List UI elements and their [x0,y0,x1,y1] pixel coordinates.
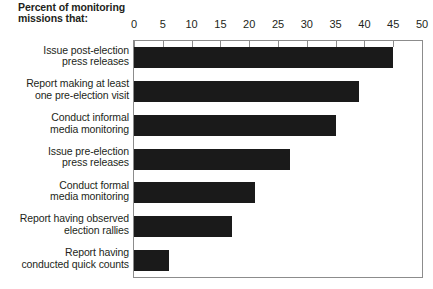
bar [134,115,336,136]
category-label-line: conducted quick counts [0,259,129,271]
bars-layer [134,41,422,277]
category-label-line: press releases [0,157,129,169]
x-axis-tick-label: 15 [214,18,226,31]
category-label: Issue post-electionpress releases [0,45,129,68]
category-label-line: election rallies [0,225,129,237]
category-axis-labels: Issue post-electionpress releasesReport … [0,40,129,278]
bar [134,182,255,203]
bar [134,216,232,237]
x-axis-tick-label: 10 [185,18,197,31]
category-label: Conduct formalmedia monitoring [0,180,129,203]
x-axis-tick-label: 5 [160,18,166,31]
category-label: Report having observedelection rallies [0,213,129,236]
chart-title-line-3: missions that: [18,12,88,24]
category-label: Conduct informalmedia monitoring [0,112,129,135]
chart-title-line-1: Percent of [18,1,68,13]
x-axis-tick-labels: 05101520253035404550 [133,18,423,36]
bar [134,250,169,271]
x-axis-tick-label: 30 [301,18,313,31]
x-axis-tick-label: 25 [272,18,284,31]
chart-title-line-2: monitoring [71,1,125,13]
bar-chart: Percent of monitoring missions that: 051… [0,0,433,289]
x-axis-tick-label: 45 [387,18,399,31]
category-label-line: Report having [0,247,129,259]
category-label-line: media monitoring [0,191,129,203]
category-label: Report havingconducted quick counts [0,247,129,270]
bar [134,47,393,68]
bar [134,81,359,102]
x-axis-tick-label: 0 [131,18,137,31]
bar [134,149,290,170]
x-axis-tick [422,41,423,47]
category-label-line: one pre-election visit [0,90,129,102]
category-label-line: media monitoring [0,124,129,136]
category-label: Report making at leastone pre-election v… [0,78,129,101]
category-label-line: press releases [0,56,129,68]
chart-title: Percent of monitoring missions that: [18,2,128,25]
category-label: Issue pre-electionpress releases [0,146,129,169]
x-axis-tick-label: 40 [358,18,370,31]
x-axis-tick-label: 35 [329,18,341,31]
x-axis-tick-label: 50 [416,18,428,31]
x-axis-tick-label: 20 [243,18,255,31]
